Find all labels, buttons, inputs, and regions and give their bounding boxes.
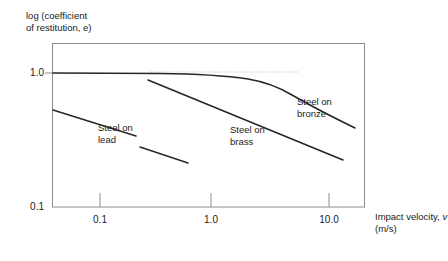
chart-svg <box>0 0 448 261</box>
curve-steel-on-brass <box>148 80 343 160</box>
curve-steel-on-lead-segment-2 <box>140 147 188 163</box>
curve-steel-on-lead-segment-1 <box>53 110 136 136</box>
chart-figure: log (coefficientof restitution, e) 1.0 0… <box>0 0 448 261</box>
curve-steel-on-bronze <box>53 73 355 128</box>
